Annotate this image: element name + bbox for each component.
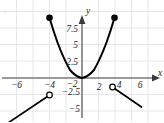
x-tick-label: −6	[11, 80, 22, 90]
right-ray	[115, 89, 142, 108]
x-tick-label: 2	[97, 82, 102, 92]
x-tick-label: 4	[117, 80, 122, 90]
y-tick-label: −2.5	[62, 87, 81, 97]
y-axis-arrow	[79, 15, 86, 24]
coordinate-plane-svg: −6 −4 −2 2 4 6 7.5 5 2.5 −2.5 −5 y x ^	[0, 0, 164, 122]
y-tick-label: 7.5	[66, 24, 78, 34]
closed-endpoint-left	[46, 14, 53, 21]
closed-endpoint-right	[111, 14, 118, 21]
open-endpoint-right	[110, 84, 116, 90]
x-axis-label: x	[157, 68, 163, 78]
y-tick-label: 2.5	[66, 57, 78, 67]
y-tick-label: −5	[69, 104, 80, 114]
y-axis-label: y	[85, 6, 91, 16]
open-endpoint-left	[47, 92, 53, 98]
x-tick-label: 6	[138, 80, 143, 90]
graph-figure: −6 −4 −2 2 4 6 7.5 5 2.5 −2.5 −5 y x ^	[0, 0, 164, 122]
x-tick-label: −4	[44, 80, 55, 90]
left-ray	[5, 97, 48, 123]
y-tick-label: 5	[73, 40, 78, 50]
corner-artifact: ^	[4, 9, 7, 15]
